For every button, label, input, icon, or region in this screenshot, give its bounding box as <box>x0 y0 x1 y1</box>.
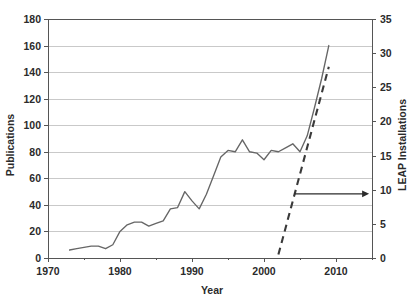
y-tick-label-left: 140 <box>23 66 41 78</box>
y-axis-right-title: LEAP Installations <box>396 99 408 191</box>
y-tick-label-left: 60 <box>29 172 41 184</box>
y-tick-label-left: 180 <box>23 13 41 25</box>
y-tick-label-left: 80 <box>29 146 41 158</box>
y-tick-label-right: 10 <box>380 184 392 196</box>
chart-background <box>0 0 416 300</box>
publications-leap-chart: 19701980199020002010 0204060801001201401… <box>0 0 416 300</box>
y-tick-label-right: 20 <box>380 115 392 127</box>
y-tick-label-right: 15 <box>380 150 392 162</box>
y-tick-label-right: 35 <box>380 13 392 25</box>
y-tick-label-right: 30 <box>380 47 392 59</box>
y-tick-label-right: 0 <box>380 252 386 264</box>
x-tick-label: 2000 <box>252 265 276 277</box>
x-tick-label: 1990 <box>180 265 204 277</box>
y-tick-label-left: 0 <box>35 252 41 264</box>
y-tick-label-left: 120 <box>23 93 41 105</box>
x-tick-label: 1980 <box>108 265 132 277</box>
y-tick-label-right: 25 <box>380 81 392 93</box>
x-tick-label: 1970 <box>36 265 60 277</box>
y-axis-left-title: Publications <box>4 114 16 177</box>
y-tick-label-left: 160 <box>23 40 41 52</box>
x-tick-label: 2010 <box>324 265 348 277</box>
x-axis-title: Year <box>201 284 223 296</box>
y-tick-label-left: 20 <box>29 225 41 237</box>
y-tick-label-left: 40 <box>29 199 41 211</box>
y-tick-label-left: 100 <box>23 119 41 131</box>
y-tick-label-right: 5 <box>380 218 386 230</box>
chart-container: 19701980199020002010 0204060801001201401… <box>0 0 416 300</box>
